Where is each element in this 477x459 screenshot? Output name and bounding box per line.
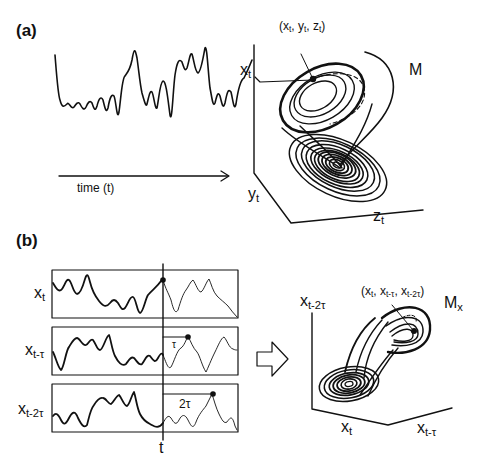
series-label-xt-2tau: xt-2τ [18,401,43,419]
panel-a-label: (a) [16,22,37,39]
series-xt-tau-past [53,335,163,370]
series-label-sub: t [42,291,45,303]
axis-x-sub: t [248,68,251,80]
axis-label-xt-b: xt [341,419,352,437]
lorenz-attractor-a [268,50,397,216]
series-label-base: x [34,284,42,301]
time-axis-label: time (t) [77,182,114,194]
axis-label-xt-tau-b: xt-τ [417,420,436,438]
series-label-xt-tau: xt-τ [25,342,44,360]
series-label-base: x [25,341,33,358]
lorenz-time-series [55,48,252,117]
axis-z-sub: t [381,214,384,226]
axis-sub: t [349,425,352,437]
manifold-label-b: Mx [444,295,463,313]
hollow-right-arrow-icon [257,342,288,376]
lagged-point-2tau [210,391,216,397]
series-box-xt-tau [52,327,238,375]
axis-sub: t-τ [425,426,436,438]
axis-sub: t-2τ [308,299,325,311]
series-xt-2tau-future [163,394,237,430]
series-label-xt: xt [34,285,45,303]
axis-y-sub: t [256,192,259,204]
two-tau-lag-label: 2τ [179,398,190,410]
embedded-point-b [411,328,417,334]
axis-base: x [417,419,425,436]
series-label-sub: t-2τ [26,407,43,419]
axis-x-base: x [240,61,248,78]
series-label-base: x [18,400,26,417]
series-label-sub: t-τ [33,348,44,360]
axis-label-xt-2tau-b: xt-2τ [300,293,325,311]
xt-projection-line [255,77,313,82]
figure-canvas [0,0,477,459]
series-box-xt [52,270,238,318]
axis-label-xt-a: xt [240,62,251,80]
series-xt-past [53,275,163,313]
panel-b-label: (b) [16,232,38,249]
embedded-attractor-b [317,307,431,406]
axis-label-yt-a: yt [248,186,259,204]
time-marker-label: t [159,440,163,456]
axis-base: x [300,292,308,309]
axis-label-zt-a: zt [373,208,384,226]
embedded-vector-label: (xt, xt-τ, xt-2τ) [361,285,424,299]
series-xt-2tau-past [53,392,163,427]
lagged-point-tau [185,334,191,340]
manifold-label-a: M [409,62,422,78]
axis-z-base: z [373,207,381,224]
manifold-sub: x [457,301,463,313]
state-vector-label: (xt, yt, zt) [279,20,325,34]
tau-lag-label: τ [172,340,176,350]
state-point-a [310,76,316,82]
series-xt-future [163,279,237,317]
manifold-base: M [444,294,457,311]
axis-y-base: y [248,185,256,202]
series-box-xt-2tau [52,384,238,432]
axis-base: x [341,418,349,435]
